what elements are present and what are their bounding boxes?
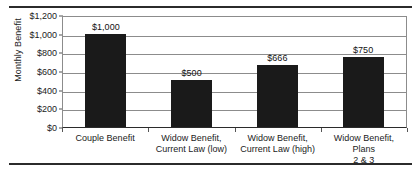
bar (343, 57, 384, 127)
y-axis-tick-label: $200 (37, 104, 57, 114)
bar-group: $1,000 (63, 17, 149, 127)
x-axis-category-label-line: Widow Benefit, Plans (322, 133, 406, 155)
x-axis-tick-mark (321, 128, 322, 132)
x-axis-category-label-line: Widow Benefit, (149, 133, 233, 144)
y-axis-tick-labels: $1,200$1,000$800$600$400$200$0 (18, 16, 60, 128)
x-axis-category-label: Widow Benefit,Current Law (low) (148, 133, 234, 166)
bar-value-label: $1,000 (63, 22, 149, 32)
bar-series: $1,000$500$666$750 (63, 17, 406, 127)
x-axis-category-labels: Couple BenefitWidow Benefit,Current Law … (62, 133, 407, 166)
bar-chart-figure: Monthly Benefit $1,200$1,000$800$600$400… (0, 0, 418, 171)
x-axis-category-label-line: Current Law (high) (236, 144, 320, 155)
figure-top-rule (9, 6, 412, 8)
bar (257, 65, 298, 127)
x-axis-category-label: Widow Benefit, Plans2 & 3 (321, 133, 407, 166)
bar-group: $500 (149, 17, 235, 127)
x-axis-category-label-line: Widow Benefit, (236, 133, 320, 144)
x-axis-category-label: Widow Benefit,Current Law (high) (235, 133, 321, 166)
bar (85, 34, 126, 127)
x-axis-category-label: Couple Benefit (62, 133, 148, 166)
x-axis-tick-mark (148, 128, 149, 132)
x-axis-category-label-line: 2 & 3 (322, 155, 406, 166)
y-axis-tick-label: $1,000 (29, 30, 57, 40)
x-axis-tick-mark (235, 128, 236, 132)
x-axis-tick-mark (62, 128, 63, 132)
plot-area: $1,000$500$666$750 (62, 16, 407, 128)
bar (171, 80, 212, 127)
bar-value-label: $666 (235, 53, 321, 63)
y-axis-tick-label: $400 (37, 86, 57, 96)
y-axis-tick-label: $600 (37, 67, 57, 77)
bar-group: $666 (235, 17, 321, 127)
y-axis-tick-label: $0 (47, 123, 57, 133)
y-axis-tick-label: $1,200 (29, 11, 57, 21)
bar-group: $750 (320, 17, 406, 127)
x-axis-category-label-line: Current Law (low) (149, 144, 233, 155)
bar-value-label: $750 (320, 45, 406, 55)
y-axis-tick-label: $800 (37, 48, 57, 58)
bar-value-label: $500 (149, 68, 235, 78)
x-axis-tick-mark (407, 128, 408, 132)
x-axis-category-label-line: Couple Benefit (63, 133, 147, 144)
